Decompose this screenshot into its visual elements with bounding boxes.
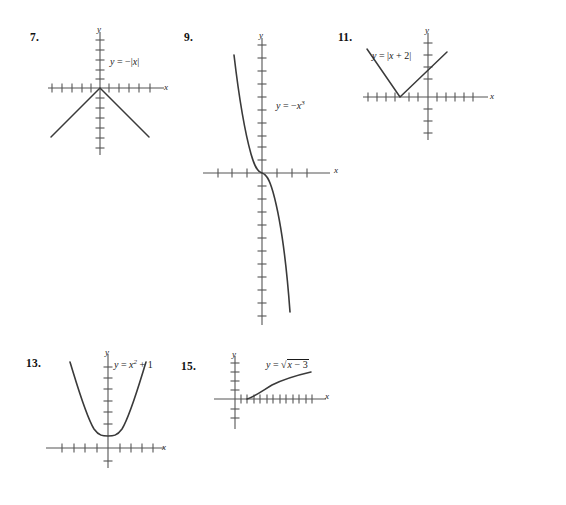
worksheet-page: 7.: [0, 0, 566, 505]
problem-number-11: 11.: [338, 31, 352, 43]
problem-number-15: 15.: [181, 360, 196, 372]
x-axis-label-15: x: [325, 392, 329, 401]
problem-number-7: 7.: [30, 31, 39, 43]
graph-9: [198, 34, 348, 334]
equation-label-13: y = x2 + 1: [114, 359, 153, 370]
x-axis-label-9: x: [334, 166, 338, 175]
x-axis-label-13: x: [162, 443, 166, 452]
equation-label-7: y = −|x|: [110, 57, 139, 67]
y-axis-label-9: y: [259, 31, 263, 40]
y-axis-label-13: y: [105, 348, 109, 357]
x-axis-label-7: x: [164, 83, 168, 92]
problem-number-13: 13.: [26, 357, 41, 369]
y-axis-label-7: y: [97, 25, 101, 34]
equation-label-9: y = −x3: [276, 100, 305, 111]
problem-number-9: 9.: [184, 31, 193, 43]
graph-11: [358, 28, 498, 153]
graph-13: [42, 350, 182, 475]
x-axis-label-11: x: [490, 92, 494, 101]
graph-7: [40, 28, 180, 168]
y-axis-label-11: y: [425, 26, 429, 35]
equation-label-11: y = |x + 2|: [372, 51, 411, 61]
y-axis-label-15: y: [232, 350, 236, 359]
curve-sqrt-shifted: [247, 372, 311, 399]
equation-label-15: y = √x − 3: [266, 359, 309, 370]
